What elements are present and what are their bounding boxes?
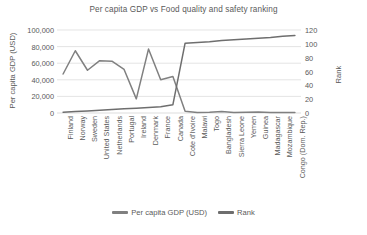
legend-swatch-icon bbox=[112, 211, 128, 213]
x-axis-label: Canada bbox=[176, 116, 185, 141]
legend-item[interactable]: Rank bbox=[218, 208, 255, 217]
chart-container: Per capita GDP vs Food quality and safet… bbox=[0, 0, 367, 235]
legend-swatch-icon bbox=[218, 211, 234, 213]
y-axis-right-tick: 20 bbox=[305, 95, 313, 104]
y-axis-right-tick: 40 bbox=[305, 81, 313, 90]
y-axis-right-tick: 100 bbox=[305, 39, 317, 48]
legend-label: Per capita GDP (USD) bbox=[131, 208, 207, 217]
x-axis-label: Ireland bbox=[139, 116, 148, 138]
plot-area bbox=[57, 30, 301, 113]
y-axis-left-tick: 80,000 bbox=[31, 42, 54, 51]
y-axis-left-tick: 60,000 bbox=[31, 59, 54, 68]
x-axis-label: Mozambique bbox=[285, 116, 294, 157]
chart-title: Per capita GDP vs Food quality and safet… bbox=[0, 5, 367, 14]
x-axis-label: France bbox=[163, 116, 172, 138]
legend-label: Rank bbox=[237, 208, 255, 217]
y-axis-right-tick: 80 bbox=[305, 53, 313, 62]
x-axis-label: Denmark bbox=[151, 116, 160, 145]
x-axis-label: Yemen bbox=[249, 116, 258, 138]
x-axis-label: Congo (Dom. Rep.) bbox=[298, 116, 307, 178]
x-axis-label: Norway bbox=[78, 116, 87, 140]
x-axis-label: Malawi bbox=[200, 116, 209, 138]
x-axis-label: Netherlands bbox=[115, 116, 124, 155]
x-axis-label: Finland bbox=[66, 116, 75, 140]
y-axis-left-ticks: 020,00040,00060,00080,000100,000 bbox=[18, 30, 54, 113]
chart-legend: Per capita GDP (USD)Rank bbox=[0, 208, 367, 217]
y-axis-right-tick: 60 bbox=[305, 67, 313, 76]
y-axis-left-title: Per capita GDP (USD) bbox=[8, 23, 17, 119]
x-axis-label: Cote d'Ivoire bbox=[188, 116, 197, 156]
y-axis-left-tick: 40,000 bbox=[31, 75, 54, 84]
x-axis-label: Madagascar bbox=[273, 116, 282, 156]
x-axis-category-labels: FinlandNorwaySwedenUnited StatesNetherla… bbox=[57, 116, 301, 198]
y-axis-left-tick: 0 bbox=[50, 109, 54, 118]
x-axis-label: Portugal bbox=[127, 116, 136, 143]
y-axis-right-tick: 120 bbox=[305, 26, 317, 35]
series-lines bbox=[57, 30, 301, 113]
x-axis-label: Guinea bbox=[261, 116, 270, 139]
y-axis-right-ticks: 020406080100120 bbox=[305, 30, 335, 113]
legend-item[interactable]: Per capita GDP (USD) bbox=[112, 208, 207, 217]
y-axis-left-tick: 100,000 bbox=[27, 26, 54, 35]
x-axis-label: United States bbox=[102, 116, 111, 159]
x-axis-label: Togo bbox=[212, 116, 221, 132]
y-axis-left-tick: 20,000 bbox=[31, 92, 54, 101]
x-axis-label: Sweden bbox=[90, 116, 99, 142]
x-axis-label: Bangladesh bbox=[224, 116, 233, 154]
series-line-1 bbox=[63, 49, 295, 112]
series-line-2 bbox=[63, 36, 295, 113]
x-axis-label: Sierra Leone bbox=[237, 116, 246, 157]
